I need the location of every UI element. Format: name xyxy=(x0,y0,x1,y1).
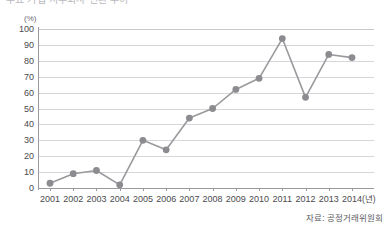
series-line xyxy=(50,39,352,185)
chart-figure: 주요 기업 지주회사 전환 추이 (%) 1009080706050403020… xyxy=(0,0,391,227)
data-point-marker xyxy=(302,94,309,101)
data-point-marker xyxy=(93,167,100,174)
data-point-marker xyxy=(116,181,123,188)
data-point-marker xyxy=(47,180,54,187)
data-series-line xyxy=(0,0,391,227)
data-point-marker xyxy=(256,75,263,82)
data-point-marker xyxy=(70,170,77,177)
data-point-marker xyxy=(279,35,286,42)
data-point-marker xyxy=(325,51,332,58)
data-point-marker xyxy=(209,105,216,112)
source-note: 자료: 공정거래위원회 xyxy=(306,213,383,223)
data-point-marker xyxy=(232,86,239,93)
data-point-marker xyxy=(140,137,147,144)
data-point-marker xyxy=(349,54,356,61)
data-point-marker xyxy=(163,146,170,153)
data-point-marker xyxy=(186,115,193,122)
